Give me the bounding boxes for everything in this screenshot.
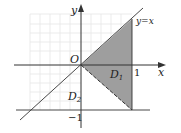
origin-label: O [70, 53, 79, 66]
y-tick-label: −1 [68, 112, 83, 123]
coordinate-diagram: y x O 1 −1 y=x D1 D2 [0, 0, 181, 133]
y-axis-label: y [70, 4, 78, 17]
y-axis-arrow-icon [78, 4, 84, 12]
x-tick-label: 1 [134, 67, 140, 78]
x-axis-label: x [158, 66, 165, 79]
line-label-y-equals-x: y=x [135, 16, 154, 26]
